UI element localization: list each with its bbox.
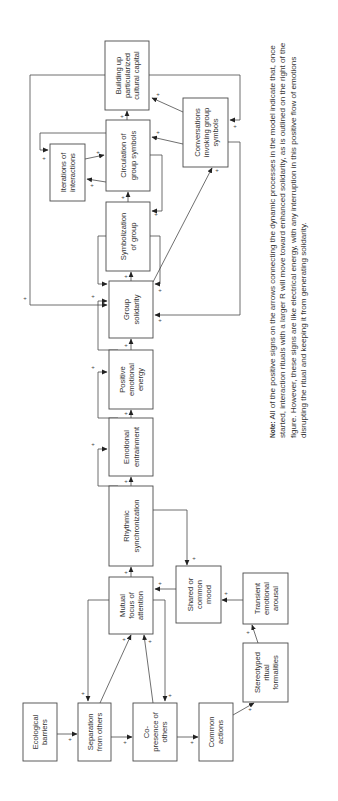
plus-sign: + — [154, 211, 158, 217]
svg-text:mood: mood — [204, 585, 213, 604]
svg-text:ritual: ritual — [262, 664, 271, 681]
plus-sign: + — [248, 706, 252, 712]
edge-stereotyped-transient — [252, 625, 258, 643]
plus-sign: + — [124, 410, 128, 416]
svg-text:others: others — [160, 721, 169, 742]
node-conversations-invoking-group-symbols: Conversations invoking group symbols — [183, 98, 228, 167]
plus-sign: + — [124, 478, 128, 484]
plus-sign: + — [122, 636, 126, 642]
node-ecological-barriers: Ecological barriers — [23, 703, 57, 761]
plus-sign: + — [90, 182, 94, 188]
plus-sign: + — [224, 590, 228, 596]
edge-circulation-symbolization-feedback — [150, 155, 162, 211]
svg-text:solidarity: solidarity — [132, 294, 141, 324]
plus-sign: + — [120, 113, 124, 119]
svg-text:arousal: arousal — [271, 586, 280, 611]
node-rhythmic-synchronization: Rhythmic synchronization — [109, 486, 153, 566]
edge-conversations-circulation — [152, 137, 183, 144]
plus-sign: + — [124, 273, 128, 279]
edge-separation-mutual — [100, 635, 131, 703]
svg-text:Iterations of: Iterations of — [59, 152, 68, 193]
plus-sign: + — [148, 638, 152, 644]
svg-text:focus of: focus of — [127, 591, 136, 618]
svg-text:Building up: Building up — [114, 57, 123, 95]
node-separation-from-others: Separation from others — [78, 703, 111, 761]
svg-text:from others: from others — [95, 713, 104, 752]
svg-text:Emotional: Emotional — [122, 430, 131, 464]
svg-text:synchronization: synchronization — [132, 500, 141, 553]
plus-sign: + — [192, 555, 196, 561]
svg-text:presence of: presence of — [151, 711, 160, 752]
svg-text:emotional: emotional — [127, 363, 136, 396]
node-shared-common-mood: Shared or common mood — [176, 566, 221, 623]
plus-sign: + — [158, 580, 162, 586]
edge-symbolization-loop-right — [150, 236, 160, 284]
svg-text:Shared or: Shared or — [186, 577, 195, 611]
svg-text:Conversations: Conversations — [193, 108, 202, 157]
note-text: All of the positive signs on the arrows … — [268, 43, 308, 438]
plus-sign: + — [121, 194, 125, 200]
plus-sign: + — [215, 167, 219, 173]
svg-text:barriers: barriers — [40, 719, 49, 745]
plus-sign: + — [156, 91, 160, 97]
svg-text:Group: Group — [122, 299, 131, 320]
node-common-actions: Common actions — [199, 703, 233, 761]
plus-sign: + — [233, 123, 237, 129]
svg-text:Ecological: Ecological — [31, 714, 40, 749]
svg-text:group symbols: group symbols — [129, 131, 138, 181]
svg-text:invoking group: invoking group — [202, 108, 211, 157]
svg-text:energy: energy — [136, 368, 145, 391]
svg-text:interactions: interactions — [68, 153, 77, 192]
svg-text:of group: of group — [129, 223, 138, 251]
svg-text:emotional: emotional — [262, 582, 271, 615]
node-emotional-entrainment: Emotional entrainment — [109, 418, 153, 476]
plus-sign: + — [42, 155, 46, 161]
plus-sign: + — [158, 287, 162, 293]
svg-text:particularized: particularized — [123, 53, 132, 98]
edge-copresence-mutual — [144, 635, 153, 703]
edge-conversations-capital — [152, 98, 183, 112]
plus-sign: + — [190, 739, 194, 745]
node-stereotyped-ritual-formalities: Stereotyped ritual formalities — [243, 643, 288, 702]
plus-sign: + — [96, 149, 100, 155]
plus-sign: + — [168, 692, 172, 698]
plus-sign: + — [124, 569, 128, 575]
edge-rhythmic-shared — [153, 510, 187, 565]
plus-sign: + — [91, 441, 95, 447]
node-group-solidarity: Group solidarity — [109, 281, 153, 338]
figure-note: Note: All of the positive signs on the a… — [268, 38, 310, 438]
svg-text:Symbolization: Symbolization — [119, 213, 128, 260]
svg-text:Separation: Separation — [86, 714, 95, 751]
node-mutual-focus-of-attention: Mutual focus of attention — [109, 577, 153, 634]
plus-sign: + — [23, 295, 27, 301]
plus-sign: + — [156, 129, 160, 135]
plus-sign: + — [123, 739, 127, 745]
svg-text:common: common — [195, 580, 204, 609]
plus-sign: + — [246, 629, 250, 635]
svg-text:Transient: Transient — [253, 582, 262, 614]
svg-text:entrainment: entrainment — [132, 426, 141, 467]
svg-text:Circulation of: Circulation of — [119, 132, 128, 177]
svg-text:symbols: symbols — [211, 118, 220, 146]
edge-mutual-copresence — [153, 600, 165, 701]
plus-sign: + — [68, 736, 72, 742]
svg-text:attention: attention — [136, 591, 145, 620]
node-building-particularized-cultural-capital: Building up particularized cultural capi… — [105, 41, 149, 110]
node-copresence-of-others: Co- presence of others — [133, 703, 177, 761]
svg-text:Positive: Positive — [118, 366, 127, 393]
note-label: Note — [269, 424, 276, 438]
plus-sign: + — [91, 293, 95, 299]
svg-text:Stereotyped: Stereotyped — [253, 652, 262, 693]
svg-text:actions: actions — [216, 720, 225, 744]
svg-text:cultural capital: cultural capital — [132, 51, 141, 100]
node-transient-emotional-arousal: Transient emotional arousal — [243, 573, 288, 624]
plus-sign: + — [158, 317, 162, 323]
svg-text:Rhythmic: Rhythmic — [122, 510, 131, 542]
svg-text:Co-: Co- — [142, 725, 151, 738]
edge-mutual-separation — [88, 600, 109, 701]
plus-sign: + — [91, 364, 95, 370]
plus-sign: + — [124, 342, 128, 348]
node-positive-emotional-energy: Positive emotional energy — [109, 350, 153, 409]
svg-text:Mutual: Mutual — [118, 594, 127, 617]
node-iterations-of-interactions: Iterations of interactions — [50, 144, 85, 201]
